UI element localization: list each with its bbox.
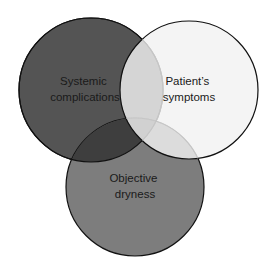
venn-diagram: Systemic complications Patient’s symptom… <box>0 0 270 268</box>
circle-patients-symptoms <box>120 21 258 159</box>
